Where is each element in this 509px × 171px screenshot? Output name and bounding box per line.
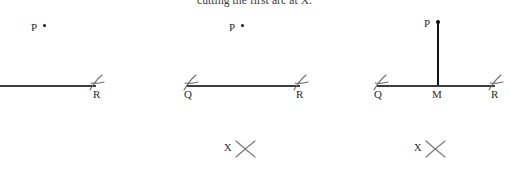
diagram-2-line-label-r: R (296, 89, 303, 100)
diagram-3-point-label-p: P (424, 18, 430, 29)
diagram-3-perpendicular-line (437, 22, 439, 86)
diagram-3-x-label: X (414, 143, 422, 154)
diagram-1-point-dot-p (43, 24, 46, 27)
diagram-3-line-label-q: Q (374, 89, 382, 100)
diagram-2-x-label: X (224, 143, 232, 154)
diagram-2-baseline (187, 85, 300, 87)
diagram-3-line-label-m: M (432, 89, 442, 100)
diagram-1-point-label-p: P (31, 22, 37, 33)
diagram-1-line-label-r: R (93, 89, 100, 100)
figure-caption: cutting the first arc at X. (0, 0, 509, 6)
diagram-2-point-label-p: P (229, 22, 235, 33)
diagram-1-baseline (0, 85, 96, 87)
diagram-3-line-label-r: R (491, 89, 498, 100)
diagram-3-baseline (377, 85, 495, 87)
diagram-2-point-dot-p (241, 24, 244, 27)
diagram-2-line-label-q: Q (184, 89, 192, 100)
geometry-construction-figure: cutting the first arc at X. P R P Q R X (0, 0, 509, 171)
